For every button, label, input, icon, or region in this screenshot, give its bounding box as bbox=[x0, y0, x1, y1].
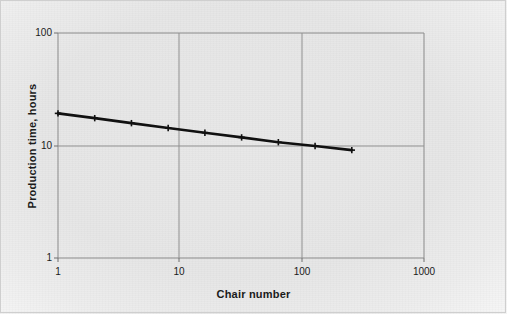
data-point-marker bbox=[275, 139, 281, 145]
x-axis-ticks bbox=[58, 258, 424, 262]
data-point-marker bbox=[238, 134, 244, 140]
data-point-marker bbox=[128, 120, 134, 126]
x-axis-title: Chair number bbox=[0, 288, 507, 300]
data-point-marker bbox=[349, 147, 355, 153]
data-point-marker bbox=[312, 143, 318, 149]
data-point-marker bbox=[165, 125, 171, 131]
series-markers bbox=[55, 110, 355, 153]
y-axis-title: Production time, hours bbox=[26, 83, 38, 208]
x-tick-label-100: 100 bbox=[282, 266, 322, 277]
data-series-production-time bbox=[55, 110, 355, 153]
x-tick-label-10: 10 bbox=[159, 266, 199, 277]
x-tick-label-1000: 1000 bbox=[404, 266, 444, 277]
data-point-marker bbox=[202, 129, 208, 135]
chart-figure: 100 10 1 1 10 100 1000 Chair number Prod… bbox=[0, 0, 507, 314]
x-tick-label-1: 1 bbox=[38, 266, 78, 277]
y-axis-ticks bbox=[54, 33, 58, 258]
plot-area: 100 10 1 1 10 100 1000 Chair number Prod… bbox=[0, 0, 507, 314]
data-point-marker bbox=[55, 110, 61, 116]
y-axis-title-container: Production time, hours bbox=[24, 33, 40, 258]
data-point-marker bbox=[92, 115, 98, 121]
